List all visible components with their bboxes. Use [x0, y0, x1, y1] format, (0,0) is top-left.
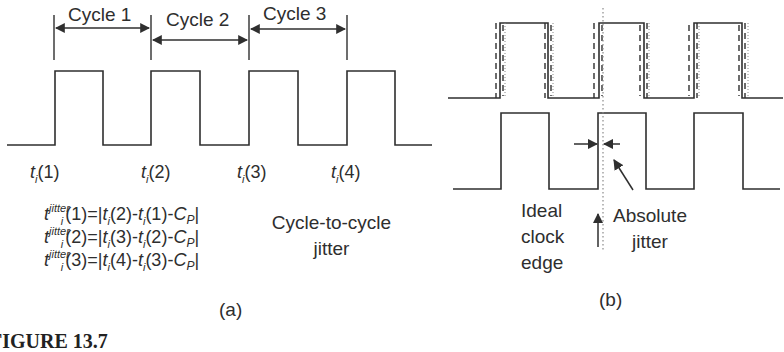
absolute-jitter-pointer [614, 160, 633, 190]
cycle-to-cycle-label: Cycle-to-cycle jitter [264, 210, 399, 262]
panel-a-label: (a) [219, 300, 242, 319]
jitter-equation-1: tjitteri(1)=|ti(2)-ti(1)-CP| [44, 205, 199, 223]
panel-b-jittered-waveform [448, 23, 783, 98]
description-line-2: jitter [264, 236, 399, 262]
jitter-equation-2: tjitteri(2)=|ti(3)-ti(2)-CP| [44, 228, 199, 246]
time-label-4: ti(4) [331, 163, 360, 181]
time-label-1: ti(1) [30, 163, 59, 181]
time-label-3: ti(3) [237, 163, 266, 181]
cycle-1-label: Cycle 1 [68, 5, 131, 24]
jitter-equation-3: tjitteri(3)=|ti(4)-ti(3)-CP| [44, 251, 199, 269]
ideal-clock-edge-label: Ideal clock edge [521, 198, 564, 276]
description-line-1: Cycle-to-cycle [264, 210, 399, 236]
panel-b-label: (b) [599, 290, 622, 309]
panel-b-ideal-waveform [453, 113, 780, 189]
panel-a-clock-waveform [7, 71, 432, 145]
figure-caption: FIGURE 13.7 [0, 330, 108, 352]
absolute-jitter-label: Absolute jitter [610, 203, 690, 255]
cycle-2-label: Cycle 2 [166, 10, 229, 29]
cycle-3-label: Cycle 3 [263, 4, 326, 23]
time-label-2: ti(2) [141, 163, 170, 181]
